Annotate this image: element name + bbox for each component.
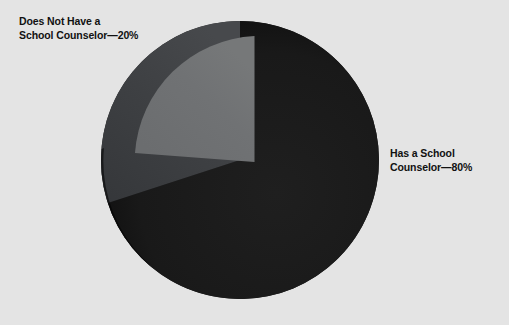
pie-label-has-counselor-line2: Counselor—80% xyxy=(390,161,472,175)
pie-label-has-counselor-line1: Has a School xyxy=(390,147,472,161)
pie-label-no-counselor-line2: School Counselor—20% xyxy=(19,29,138,43)
pie-label-no-counselor: Does Not Have a School Counselor—20% xyxy=(19,15,138,42)
pie-label-no-counselor-line1: Does Not Have a xyxy=(19,15,138,29)
pie-chart-figure: Does Not Have a School Counselor—20% Has… xyxy=(0,0,509,325)
pie-label-has-counselor: Has a School Counselor—80% xyxy=(390,147,472,174)
